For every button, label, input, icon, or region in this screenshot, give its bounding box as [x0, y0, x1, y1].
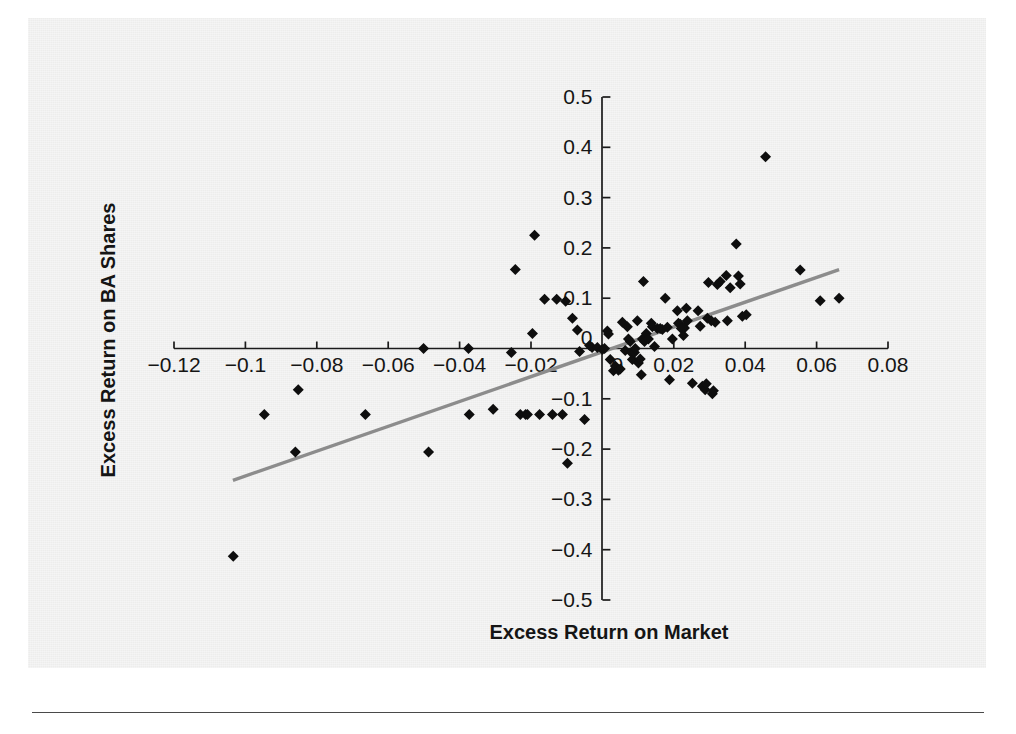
data-point — [557, 409, 568, 420]
y-tick-label: 0.3 — [563, 186, 592, 209]
data-point — [522, 409, 533, 420]
data-point — [360, 409, 371, 420]
data-point — [725, 282, 736, 293]
x-axis-tick-labels: −0.12−0.1−0.08−0.06−0.04−0.0200.020.040.… — [147, 353, 908, 376]
data-point — [667, 333, 678, 344]
data-point — [567, 313, 578, 324]
data-point — [418, 343, 429, 354]
data-point — [510, 264, 521, 275]
x-tick-label: 0.08 — [868, 353, 909, 376]
data-point — [687, 378, 698, 389]
data-point — [672, 305, 683, 316]
y-tick-label: −0.5 — [551, 588, 592, 611]
x-tick-label: −0.06 — [362, 353, 415, 376]
data-point — [722, 315, 733, 326]
data-point — [527, 328, 538, 339]
data-point — [551, 294, 562, 305]
x-tick-label: −0.04 — [433, 353, 486, 376]
y-tick-label: −0.4 — [551, 538, 593, 561]
data-point — [795, 265, 806, 276]
data-point — [529, 230, 540, 241]
y-tick-label: 0.5 — [563, 85, 592, 108]
y-axis-title: Excess Return on BA Shares — [97, 203, 119, 478]
y-tick-label: 0.2 — [563, 236, 592, 259]
x-tick-label: −0.12 — [147, 353, 200, 376]
data-point — [534, 409, 545, 420]
data-point — [547, 409, 558, 420]
data-point — [695, 321, 706, 332]
data-point — [760, 151, 771, 162]
figure-root: −0.12−0.1−0.08−0.06−0.04−0.0200.020.040.… — [0, 0, 1016, 734]
scatter-plot: −0.12−0.1−0.08−0.06−0.04−0.0200.020.040.… — [0, 0, 1016, 734]
data-point — [464, 409, 475, 420]
data-point — [293, 384, 304, 395]
data-point — [693, 305, 704, 316]
data-point — [579, 414, 590, 425]
data-point — [815, 295, 826, 306]
x-tick-label: 0.04 — [725, 353, 766, 376]
data-point — [488, 404, 499, 415]
data-point — [638, 276, 649, 287]
x-tick-label: −0.08 — [290, 353, 343, 376]
x-tick-label: 0.06 — [796, 353, 837, 376]
x-tick-label: 0.02 — [653, 353, 694, 376]
page-bottom-rule — [32, 712, 984, 713]
data-point — [834, 293, 845, 304]
x-axis: −0.12−0.1−0.08−0.06−0.04−0.0200.020.040.… — [147, 342, 908, 376]
data-point — [423, 447, 434, 458]
y-tick-label: −0.1 — [551, 387, 592, 410]
data-point — [664, 374, 675, 385]
data-point — [228, 551, 239, 562]
data-point — [636, 369, 647, 380]
data-point — [539, 294, 550, 305]
data-point — [660, 293, 671, 304]
x-tick-label: −0.1 — [225, 353, 266, 376]
data-point — [733, 271, 744, 282]
data-point — [731, 238, 742, 249]
data-point — [632, 315, 643, 326]
x-axis-title: Excess Return on Market — [490, 621, 729, 643]
y-tick-label: −0.2 — [551, 437, 592, 460]
x-axis-ticks — [174, 342, 888, 349]
data-point — [259, 409, 270, 420]
data-point — [681, 303, 692, 314]
data-point — [649, 341, 660, 352]
y-tick-label: 0.4 — [563, 135, 593, 158]
y-tick-label: −0.3 — [551, 487, 592, 510]
data-point — [703, 277, 714, 288]
data-point — [735, 279, 746, 290]
